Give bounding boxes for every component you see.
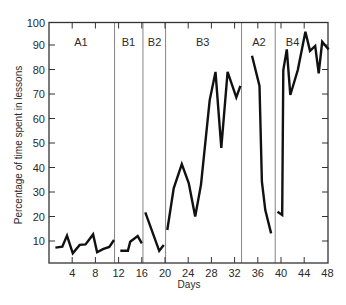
phase-labels: A1B1B2B3A2B4 bbox=[74, 36, 299, 48]
phase-boundaries bbox=[115, 23, 276, 264]
phase-label-a1: A1 bbox=[74, 36, 87, 48]
x-tick-label: 8 bbox=[92, 267, 98, 279]
data-series bbox=[55, 32, 328, 254]
series-line-b4 bbox=[278, 32, 329, 215]
x-tick-label: 12 bbox=[112, 267, 124, 279]
x-tick-label: 16 bbox=[136, 267, 148, 279]
x-tick-label: 32 bbox=[228, 267, 240, 279]
y-tick-label: 80 bbox=[33, 64, 45, 76]
phase-label-b3: B3 bbox=[196, 36, 209, 48]
line-chart: 4812162024283236404448102030405060708090… bbox=[0, 0, 346, 305]
phase-label-b4: B4 bbox=[286, 36, 299, 48]
y-tick-label: 60 bbox=[33, 113, 45, 125]
series-line-b3 bbox=[167, 72, 240, 230]
y-tick-label: 20 bbox=[33, 211, 45, 223]
x-tick-label: 48 bbox=[321, 267, 333, 279]
x-tick-label: 36 bbox=[252, 267, 264, 279]
y-tick-label: 100 bbox=[27, 17, 45, 29]
x-tick-label: 4 bbox=[69, 267, 75, 279]
series-line-a2 bbox=[252, 56, 271, 234]
x-tick-label: 20 bbox=[159, 267, 171, 279]
phase-label-b2: B2 bbox=[148, 36, 161, 48]
y-tick-label: 90 bbox=[33, 39, 45, 51]
y-axis-title: Percentage of time spent in lessons bbox=[13, 66, 24, 224]
x-axis-title: Days bbox=[178, 279, 201, 290]
y-tick-label: 10 bbox=[33, 235, 45, 247]
series-line-a1 bbox=[55, 234, 114, 253]
x-tick-label: 24 bbox=[182, 267, 194, 279]
y-tick-label: 50 bbox=[33, 137, 45, 149]
phase-label-a2: A2 bbox=[252, 36, 265, 48]
series-line-b1 bbox=[120, 236, 142, 251]
series-line-b2 bbox=[145, 212, 164, 251]
x-tick-label: 40 bbox=[275, 267, 287, 279]
y-tick-label: 30 bbox=[33, 186, 45, 198]
y-tick-label: 70 bbox=[33, 88, 45, 100]
x-tick-label: 44 bbox=[298, 267, 310, 279]
y-tick-label: 40 bbox=[33, 162, 45, 174]
phase-label-b1: B1 bbox=[122, 36, 135, 48]
x-tick-label: 28 bbox=[205, 267, 217, 279]
